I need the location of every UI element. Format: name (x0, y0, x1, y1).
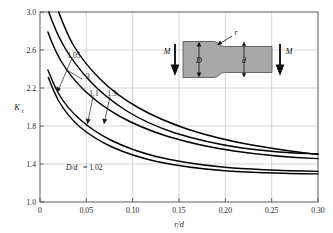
x-tick-label-6: 0.30 (311, 206, 324, 215)
x-tick-label-5: 0.25 (265, 206, 278, 215)
x-axis-title: r/d (174, 220, 184, 229)
curve-annotation-1-02-prefix: D/d (65, 163, 78, 172)
y-tick-label-4: 2.6 (27, 46, 37, 55)
dimension-D-label: D (195, 56, 202, 65)
y-axis-title-subscript: t (22, 108, 24, 114)
x-tick-label-4: 0.20 (219, 206, 232, 215)
y-axis-title-main: K (13, 103, 20, 112)
stress-concentration-chart-figure: 1.0 1.4 1.8 2.2 2.6 3.0 0 0.05 0.10 0.15… (0, 0, 333, 233)
x-tick-label-3: 0.15 (172, 206, 185, 215)
y-tick-label-1: 1.4 (27, 160, 37, 169)
x-tick-label-1: 0.05 (80, 206, 93, 215)
curve-annotation-1-02: D/d = 1.02 (65, 163, 103, 172)
x-tick-label-2: 0.10 (126, 206, 139, 215)
y-tick-label-5: 3.0 (27, 8, 37, 17)
curve-annotation-3: 3 (86, 72, 90, 81)
y-tick-label-3: 2.2 (27, 84, 37, 93)
curve-annotation-1-02-value: = 1.02 (83, 163, 103, 172)
moment-right-label: M (285, 47, 294, 56)
chart-canvas: 1.0 1.4 1.8 2.2 2.6 3.0 0 0.05 0.10 0.15… (0, 0, 333, 233)
y-tick-label-0: 1.0 (27, 198, 37, 207)
moment-left-label: M (163, 47, 172, 56)
curve-annotation-1-05: 1.05 (67, 51, 80, 60)
x-tick-label-0: 0 (38, 206, 42, 215)
y-axis-title: K t (13, 103, 23, 114)
curve-annotation-1-3: 1.3 (107, 89, 117, 98)
y-tick-label-2: 1.8 (27, 122, 37, 131)
curve-annotation-1-1: 1.1 (89, 89, 99, 98)
